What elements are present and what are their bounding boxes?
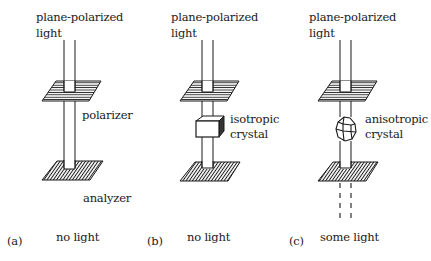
panel-a-tag: (a) bbox=[7, 233, 22, 249]
analyzer-plate bbox=[180, 161, 240, 181]
panel-a-light-label-line1: plane-polarized bbox=[36, 9, 123, 25]
analyzer-label: analyzer bbox=[83, 190, 131, 206]
polarizer-plate bbox=[180, 81, 239, 101]
panel-b-result: no light bbox=[187, 229, 230, 245]
isotropic-crystal-label-line2: crystal bbox=[230, 126, 268, 142]
polarizer-label: polarizer bbox=[82, 107, 133, 123]
polarizer-plate bbox=[42, 81, 101, 101]
panel-c-light-label-line2: light bbox=[309, 25, 335, 41]
panel-c-light-label-line1: plane-polarized bbox=[309, 9, 396, 25]
panel-b-light-label-line1: plane-polarized bbox=[171, 9, 258, 25]
panel-a-light-label-line2: light bbox=[36, 25, 62, 41]
polarization-diagram: plane-polarized light polarizer analyzer… bbox=[0, 0, 431, 261]
isotropic-crystal bbox=[196, 116, 224, 137]
anisotropic-crystal bbox=[336, 117, 356, 141]
panel-b-tag: (b) bbox=[147, 233, 163, 249]
polarizer-plate bbox=[318, 81, 377, 101]
panel-a-result: no light bbox=[56, 229, 99, 245]
transmitted-light-beam bbox=[340, 183, 351, 218]
anisotropic-crystal-label-line1: anisotropic bbox=[365, 111, 428, 127]
anisotropic-crystal-label-line2: crystal bbox=[365, 126, 403, 142]
panel-b-light-label-line2: light bbox=[171, 25, 197, 41]
panel-c-result: some light bbox=[320, 229, 379, 245]
analyzer-plate bbox=[42, 160, 103, 180]
panel-c-tag: (c) bbox=[289, 233, 304, 249]
analyzer-plate bbox=[318, 161, 378, 181]
isotropic-crystal-label-line1: isotropic bbox=[230, 111, 279, 127]
